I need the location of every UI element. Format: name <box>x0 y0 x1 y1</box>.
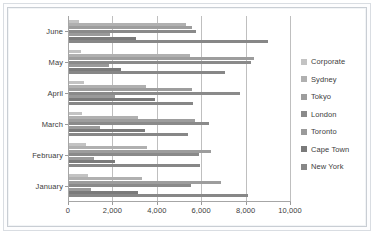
legend-item-cape-town[interactable]: Cape Town <box>301 141 365 159</box>
y-axis-label-march: March <box>42 119 63 128</box>
legend-label: Cape Town <box>311 145 349 154</box>
legend-item-london[interactable]: London <box>301 106 365 124</box>
gridline <box>201 16 202 201</box>
bar-new-york-january <box>68 194 248 197</box>
y-axis-tick <box>65 31 68 32</box>
x-axis-tick <box>246 202 247 205</box>
y-axis-label-january: January <box>36 181 63 190</box>
bar-new-york-april <box>68 102 193 105</box>
x-axis-line <box>68 201 291 202</box>
y-axis-tick <box>65 124 68 125</box>
x-axis-label-10000: 10,000 <box>278 206 302 215</box>
legend-item-toronto[interactable]: Toronto <box>301 123 365 141</box>
x-axis-label-2000: 2,000 <box>103 206 122 215</box>
y-axis-label-june: June <box>46 27 63 36</box>
legend-swatch-icon <box>301 111 307 117</box>
gridline <box>290 16 291 201</box>
y-axis-tick <box>65 186 68 187</box>
x-axis-tick <box>157 202 158 205</box>
x-axis-label-8000: 8,000 <box>236 206 255 215</box>
x-axis-tick <box>68 202 69 205</box>
legend-swatch-icon <box>301 59 307 65</box>
y-axis-tick <box>65 62 68 63</box>
legend-label: London <box>311 110 337 119</box>
x-axis-label-6000: 6,000 <box>192 206 211 215</box>
x-axis-label-0: 0 <box>66 206 70 215</box>
legend-item-new-york[interactable]: New York <box>301 158 365 176</box>
chart-screenshot: JuneMayAprilMarchFebruaryJanuary 02,0004… <box>0 0 377 238</box>
bar-new-york-march <box>68 133 188 136</box>
x-axis-tick <box>290 202 291 205</box>
legend-label: Corporate <box>311 57 345 66</box>
legend-swatch-icon <box>301 146 307 152</box>
gridline <box>157 16 158 201</box>
legend-swatch-icon <box>301 129 307 135</box>
bar-new-york-may <box>68 71 225 74</box>
x-axis-label-4000: 4,000 <box>147 206 166 215</box>
y-axis-labels: JuneMayAprilMarchFebruaryJanuary <box>9 16 63 201</box>
legend-item-corporate[interactable]: Corporate <box>301 53 365 71</box>
y-axis-tick <box>65 93 68 94</box>
bar-new-york-june <box>68 40 268 43</box>
legend-label: New York <box>311 162 344 171</box>
legend-swatch-icon <box>301 94 307 100</box>
x-axis-tick <box>112 202 113 205</box>
legend-item-tokyo[interactable]: Tokyo <box>301 88 365 106</box>
y-axis-label-february: February <box>32 150 63 159</box>
legend-label: Sydney <box>311 75 337 84</box>
x-axis-tick <box>201 202 202 205</box>
legend-swatch-icon <box>301 164 307 170</box>
y-axis-label-april: April <box>47 89 63 98</box>
legend-label: Toronto <box>311 127 337 136</box>
plot-region <box>68 16 290 201</box>
legend-item-sydney[interactable]: Sydney <box>301 71 365 89</box>
chart-area: JuneMayAprilMarchFebruaryJanuary 02,0004… <box>9 9 365 225</box>
legend-swatch-icon <box>301 76 307 82</box>
gridline <box>246 16 247 201</box>
legend-label: Tokyo <box>311 92 331 101</box>
bar-new-york-february <box>68 164 200 167</box>
gridline <box>112 16 113 201</box>
y-axis-line <box>68 16 69 202</box>
y-axis-tick <box>65 155 68 156</box>
y-axis-label-may: May <box>49 58 63 67</box>
chart-legend: CorporateSydneyTokyoLondonTorontoCape To… <box>301 53 365 176</box>
